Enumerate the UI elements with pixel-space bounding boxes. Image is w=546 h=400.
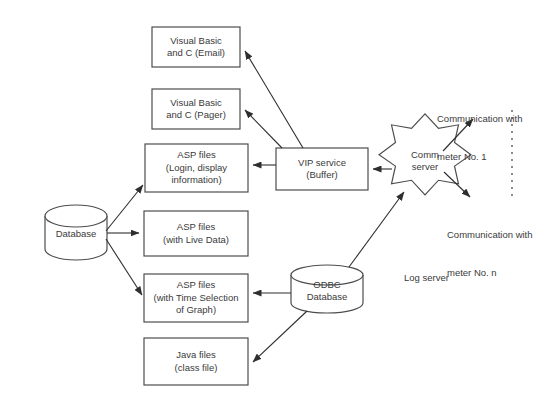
diagram-canvas: Visual Basic and C (Email) Visual Basic …: [0, 0, 546, 400]
diagram-graphics: [0, 0, 546, 400]
label-comm-meter-1-line1: Communication with: [437, 113, 523, 126]
connector-vip-to-vb-pager: [245, 110, 282, 148]
label-comm-meter-n-line1: Communication with: [447, 229, 533, 242]
node-database: [45, 205, 107, 260]
node-vb-email: [152, 27, 240, 67]
connector-db-to-asp-time: [106, 239, 142, 295]
node-java-files: [144, 338, 248, 385]
connector-odbc-to-java: [253, 311, 307, 362]
node-vb-pager: [152, 89, 240, 129]
node-odbc-database: [291, 265, 363, 313]
node-asp-live-data: [144, 211, 248, 256]
connector-db-to-asp-login: [106, 185, 143, 231]
connector-vip-to-vb-email: [245, 51, 303, 148]
label-comm-meter-n-line2: meter No. n: [447, 267, 533, 280]
connector-odbc-to-comm: [349, 192, 404, 267]
node-vip-service: [276, 148, 368, 190]
label-comm-meter-n: Communication with meter No. n: [447, 204, 533, 304]
label-comm-meter-1: Communication with meter No. 1: [437, 88, 523, 188]
node-asp-login: [145, 144, 248, 192]
label-log-server-line1: Log server: [404, 272, 449, 285]
label-comm-meter-1-line2: meter No. 1: [437, 151, 523, 164]
label-log-server: Log server: [404, 247, 449, 310]
node-asp-time-selection: [144, 274, 248, 322]
